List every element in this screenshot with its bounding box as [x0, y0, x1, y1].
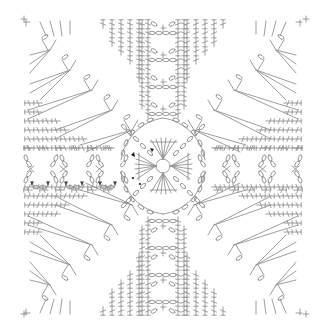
center-ring: [156, 159, 170, 173]
region-right-x-band: [197, 145, 302, 192]
region-center-medallion: [120, 117, 205, 214]
crochet-pattern-diagram: [0, 0, 324, 335]
region-bottom-chain-band: [139, 219, 186, 315]
region-left-x-band: [23, 145, 128, 192]
region-bottom-left-fill: [24, 183, 151, 315]
region-top-chain-band: [139, 20, 186, 116]
crochet-chart-canvas: [0, 0, 324, 335]
region-bottom-right-fill: [175, 183, 302, 315]
